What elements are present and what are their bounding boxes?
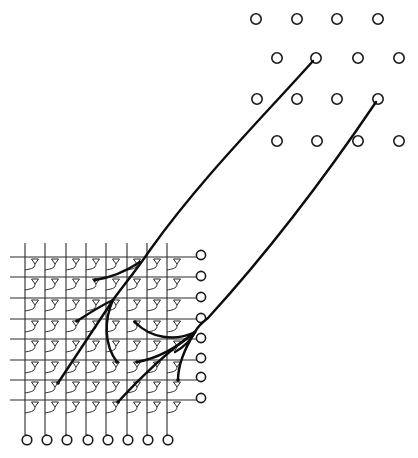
connector-arc [45,387,55,393]
connector-arc [127,367,137,373]
source-node-array [251,14,404,146]
triangle-icon [154,341,161,346]
cell-switch-icon [45,279,59,290]
cell-switch-icon [167,279,181,290]
connector-arc [147,305,157,311]
triangle-icon [113,279,120,284]
source-node [373,14,383,24]
triangle-icon [93,259,100,264]
source-node [353,53,363,63]
connector-arc [45,305,55,311]
connector-arc [86,284,96,290]
route-endpoint [93,278,97,282]
connector-arc [167,305,177,311]
triangle-icon [154,321,161,326]
triangle-icon [73,402,80,407]
column-terminal-node [163,435,173,445]
cell-switch-icon [66,259,80,270]
row-terminal-node [196,393,205,402]
connector-arc [167,387,177,393]
row-terminal-node [196,333,205,342]
triangle-icon [154,382,161,387]
cell-switch-icon [66,300,80,311]
triangle-icon [32,362,39,367]
column-terminal-node [22,435,32,445]
cell-switch-icon [127,341,141,352]
connector-arc [66,326,76,332]
connector-arc [66,407,76,413]
connector-arc [45,264,55,270]
source-node [394,136,404,146]
column-terminal-node [42,435,52,445]
route-endpoint [176,378,180,382]
triangle-icon [113,382,120,387]
cell-switch-icon [127,362,141,373]
connector-arc [127,346,137,352]
cell-switch-icon [25,341,39,352]
column-terminal-node [83,435,93,445]
triangle-icon [32,382,39,387]
triangle-icon [113,321,120,326]
connector-arc [66,305,76,311]
connector-arc [167,407,177,413]
source-node [353,136,363,146]
connector-arc [86,346,96,352]
cell-switch-icon [86,382,100,393]
triangle-icon [154,300,161,305]
row-terminal-node [196,292,205,301]
connector-arc [66,284,76,290]
cell-switch-icon [127,300,141,311]
source-node [312,136,322,146]
triangle-icon [73,362,80,367]
cell-switch-icon [25,321,39,332]
triangle-icon [52,341,59,346]
connector-arc [25,407,35,413]
triangle-icon [134,300,141,305]
source-node [332,14,342,24]
connector-arc [86,264,96,270]
connector-arc [45,326,55,332]
row-terminal-node [196,250,205,259]
triangle-icon [32,341,39,346]
cell-switch-icon [86,362,100,373]
connector-arc [25,367,35,373]
source-node [292,94,302,104]
source-node [272,53,282,63]
connector-arc [66,264,76,270]
triangle-icon [32,259,39,264]
triangle-icon [154,402,161,407]
connector-arc [147,264,157,270]
row-terminal-node [196,372,205,381]
connector-arc [86,367,96,373]
cell-switch-icon [147,341,161,352]
cell-switch-icon [25,362,39,373]
cell-switch-icon [106,382,120,393]
triangle-icon [174,382,181,387]
cell-switch-icon [25,259,39,270]
cell-switch-icon [86,341,100,352]
cell-switch-icon [25,382,39,393]
grid-terminals [22,250,205,444]
cell-switch-icon [66,279,80,290]
triangle-icon [73,300,80,305]
connector-arc [147,407,157,413]
column-terminal-node [62,435,72,445]
connector-arc [25,284,35,290]
diagram-canvas [0,0,418,458]
connector-arc [127,305,137,311]
route-endpoint [75,319,79,323]
cell-switch-icon [167,321,181,332]
row-terminal-node [196,353,205,362]
connector-arc [86,407,96,413]
cell-switch-icon [106,259,120,270]
cell-switch-icon [45,362,59,373]
cell-switch-icon [147,321,161,332]
connector-arc [106,367,116,373]
connector-arc [25,346,35,352]
cell-switch-icon [45,321,59,332]
crossbar-grid [10,243,197,435]
triangle-icon [52,300,59,305]
connector-arc [106,284,116,290]
triangle-icon [154,259,161,264]
connector-arc [106,387,116,393]
